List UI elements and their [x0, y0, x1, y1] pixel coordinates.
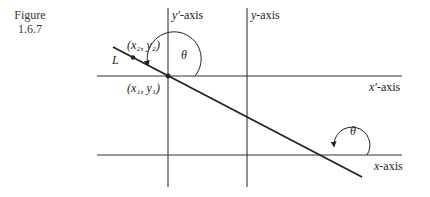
x-axis-label: x-axis	[373, 159, 403, 173]
line-L-label: L	[111, 53, 119, 67]
point1-label: (x₁, y₁)	[127, 81, 160, 95]
x-prime-axis-label: x′-axis	[368, 80, 401, 94]
angle-theta-bottom-label: θ	[350, 124, 356, 138]
point2-dot	[131, 55, 135, 59]
y-axis-label: y-axis	[250, 8, 280, 22]
angle-theta-top-label: θ	[181, 48, 187, 62]
diagram-canvas: y′-axis y-axis x′-axis x-axis L (x₂, y₂)…	[0, 0, 430, 197]
point2-label: (x₂, y₂)	[127, 38, 160, 52]
line-L	[113, 47, 362, 177]
y-prime-axis-label: y′-axis	[171, 8, 204, 22]
point1-dot	[166, 74, 171, 79]
